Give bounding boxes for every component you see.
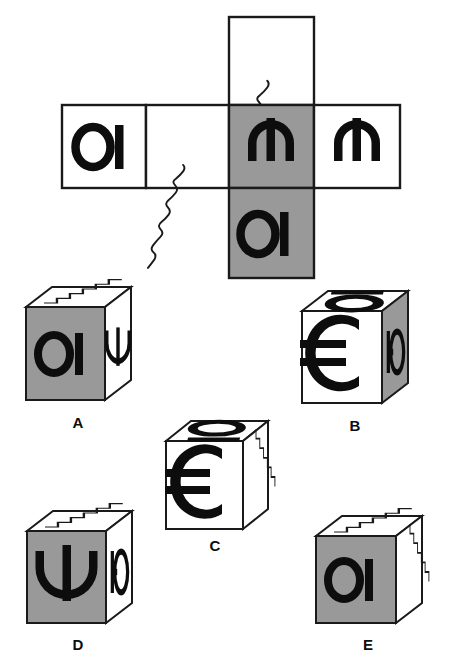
puzzle-canvas: A B bbox=[0, 0, 451, 665]
option-e-label: E bbox=[363, 636, 373, 653]
cube-option-e[interactable]: E bbox=[0, 0, 451, 665]
option-e-right-face bbox=[396, 516, 422, 623]
